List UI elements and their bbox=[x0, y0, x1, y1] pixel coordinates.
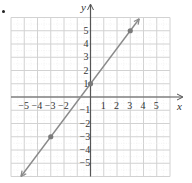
x-tick-label: 3 bbox=[127, 101, 132, 111]
y-tick-label: 4 bbox=[84, 39, 89, 49]
x-tick-label: 4 bbox=[141, 101, 146, 111]
y-tick-label: 3 bbox=[84, 52, 89, 62]
x-tick-label: −5 bbox=[18, 101, 29, 111]
x-tick-label: −4 bbox=[32, 101, 43, 111]
y-axis-label: y bbox=[81, 2, 86, 13]
y-tick-label: −5 bbox=[80, 158, 91, 168]
y-tick-label: 2 bbox=[84, 66, 89, 76]
y-tick-label: −3 bbox=[80, 132, 91, 142]
x-tick-label: −2 bbox=[58, 101, 69, 111]
y-tick-label: −4 bbox=[80, 145, 91, 155]
x-tick-label: 5 bbox=[154, 101, 159, 111]
coordinate-plane bbox=[0, 0, 192, 183]
x-tick-label: 2 bbox=[114, 101, 119, 111]
y-tick-label: −2 bbox=[80, 119, 91, 129]
y-tick-label: 1 bbox=[84, 79, 89, 89]
x-tick-label: 1 bbox=[101, 101, 106, 111]
y-tick-label: 5 bbox=[84, 26, 89, 36]
x-tick-label: −3 bbox=[45, 101, 56, 111]
x-axis-label: x bbox=[177, 101, 182, 112]
y-tick-label: −1 bbox=[80, 105, 91, 115]
